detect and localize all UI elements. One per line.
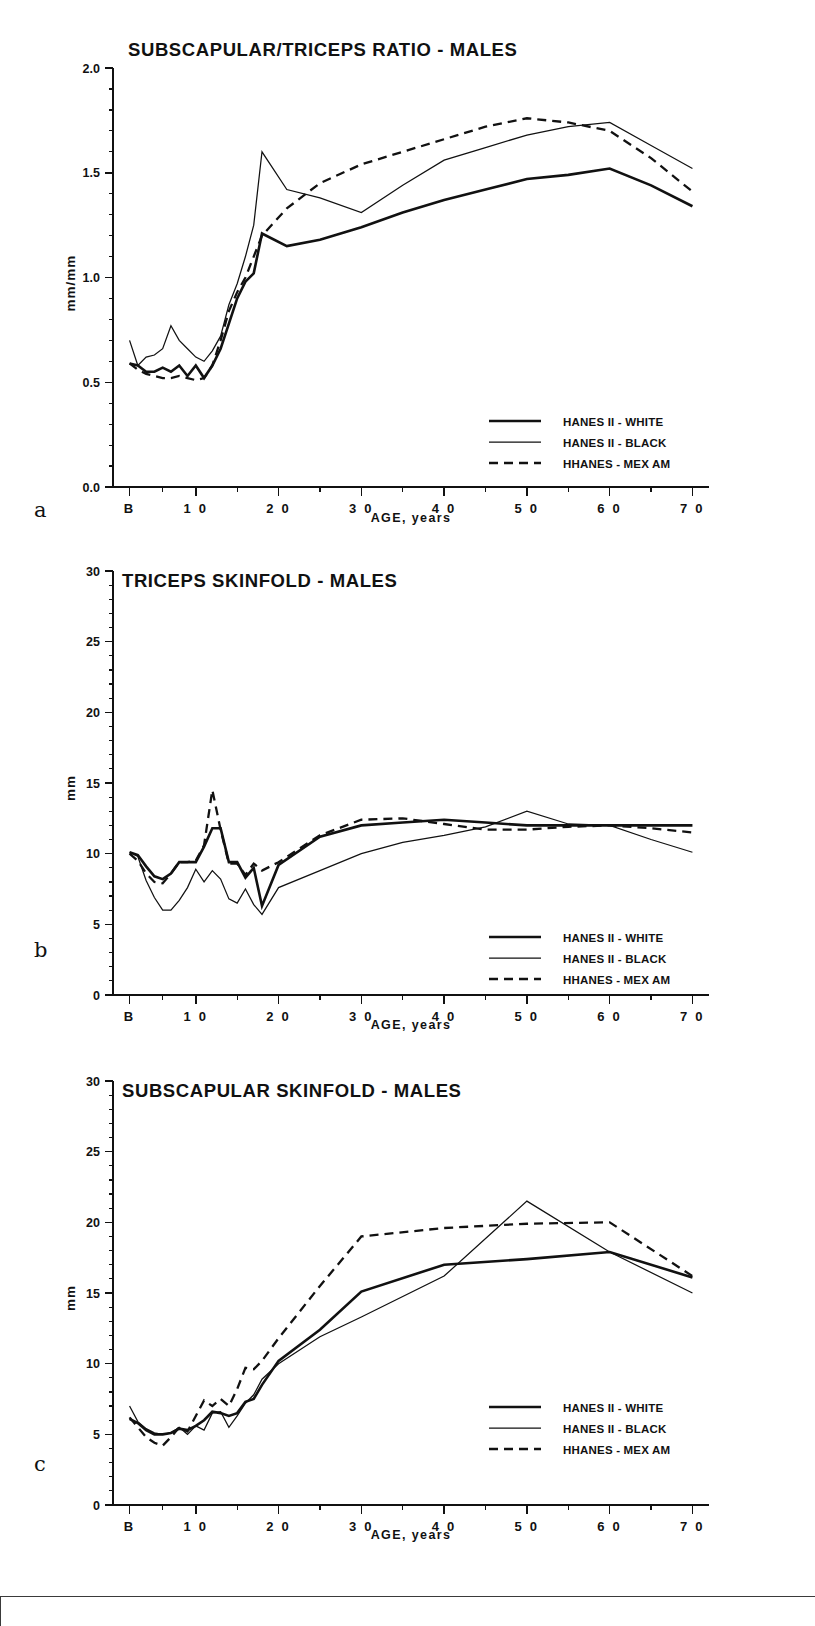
x-tick-label: 1 0 — [183, 1519, 208, 1534]
chart-svg-b: TRICEPS SKINFOLD - MALES051015202530B1 0… — [0, 540, 815, 1055]
y-tick-label: 25 — [86, 1145, 100, 1159]
x-axis-title-c: AGE, years — [371, 1528, 452, 1542]
y-tick-label: 25 — [86, 635, 100, 649]
chart-panel-b: TRICEPS SKINFOLD - MALES051015202530B1 0… — [0, 540, 815, 1055]
y-tick-label: 0 — [93, 989, 100, 1003]
y-tick-label: 1.0 — [83, 271, 100, 285]
panel-letter-a: a — [34, 498, 47, 522]
legend-label-1: HANES II - BLACK — [563, 1423, 667, 1435]
y-axis-title-c: mm — [63, 1285, 78, 1311]
x-tick-label: 5 0 — [515, 501, 540, 516]
page-edge-marker — [0, 1596, 1, 1626]
x-tick-label: 1 0 — [183, 1009, 208, 1024]
x-axis-title-b: AGE, years — [371, 1018, 452, 1032]
chart-title-a: SUBSCAPULAR/TRICEPS RATIO - MALES — [128, 39, 517, 60]
x-tick-label: 5 0 — [515, 1009, 540, 1024]
x-tick-label: 2 0 — [266, 1519, 291, 1534]
y-axis-title-b: mm — [63, 775, 78, 801]
y-tick-label: 30 — [86, 1075, 100, 1089]
y-tick-label: 5 — [93, 918, 100, 932]
x-tick-label: 6 0 — [597, 501, 622, 516]
legend-label-2: HHANES - MEX AM — [563, 458, 670, 470]
x-tick-label: 2 0 — [266, 1009, 291, 1024]
series-line-hanes-ii-black — [130, 122, 693, 365]
chart-title-c: SUBSCAPULAR SKINFOLD - MALES — [122, 1080, 462, 1101]
figure-root: SUBSCAPULAR/TRICEPS RATIO - MALES0.00.51… — [0, 0, 815, 1626]
page-footer-rule — [0, 1596, 815, 1597]
panel-letter-c: c — [34, 1452, 46, 1476]
y-tick-label: 15 — [86, 777, 100, 791]
y-tick-label: 2.0 — [83, 62, 100, 76]
panel-letter-b: b — [34, 938, 47, 962]
chart-svg-c: SUBSCAPULAR SKINFOLD - MALES051015202530… — [0, 1055, 815, 1565]
y-tick-label: 1.5 — [83, 166, 100, 180]
y-tick-label: 0.5 — [83, 376, 100, 390]
y-tick-label: 0 — [93, 1499, 100, 1513]
x-tick-label: 6 0 — [597, 1009, 622, 1024]
chart-title-b: TRICEPS SKINFOLD - MALES — [122, 570, 397, 591]
y-tick-label: 10 — [86, 847, 100, 861]
x-tick-label: 7 0 — [680, 1519, 705, 1534]
series-line-hanes-ii-black — [130, 1201, 693, 1434]
y-tick-label: 15 — [86, 1287, 100, 1301]
chart-panel-c: SUBSCAPULAR SKINFOLD - MALES051015202530… — [0, 1055, 815, 1565]
x-tick-label: 2 0 — [266, 501, 291, 516]
chart-panel-a: SUBSCAPULAR/TRICEPS RATIO - MALES0.00.51… — [0, 0, 815, 540]
x-tick-label: 6 0 — [597, 1519, 622, 1534]
x-tick-label: B — [124, 501, 136, 516]
y-axis-title-a: mm/mm — [63, 255, 78, 312]
y-tick-label: 5 — [93, 1428, 100, 1442]
legend-label-0: HANES II - WHITE — [563, 416, 663, 428]
y-tick-label: 20 — [86, 706, 100, 720]
x-tick-label: 1 0 — [183, 501, 208, 516]
series-line-hanes-ii-black — [130, 811, 693, 914]
y-tick-label: 0.0 — [83, 481, 100, 495]
legend-label-2: HHANES - MEX AM — [563, 1444, 670, 1456]
x-tick-label: 7 0 — [680, 1009, 705, 1024]
x-axis-title-a: AGE, years — [371, 511, 452, 525]
legend-label-1: HANES II - BLACK — [563, 953, 667, 965]
x-tick-label: 7 0 — [680, 501, 705, 516]
chart-svg-a: SUBSCAPULAR/TRICEPS RATIO - MALES0.00.51… — [0, 0, 815, 540]
x-tick-label: B — [124, 1519, 136, 1534]
legend-label-2: HHANES - MEX AM — [563, 974, 670, 986]
legend-label-0: HANES II - WHITE — [563, 932, 663, 944]
y-tick-label: 10 — [86, 1357, 100, 1371]
y-tick-label: 20 — [86, 1216, 100, 1230]
y-tick-label: 30 — [86, 565, 100, 579]
legend-label-0: HANES II - WHITE — [563, 1402, 663, 1414]
series-line-hanes-ii-white — [130, 820, 693, 906]
x-tick-label: 5 0 — [515, 1519, 540, 1534]
legend-label-1: HANES II - BLACK — [563, 437, 667, 449]
series-line-hhanes-mex-am — [130, 790, 693, 883]
series-line-hhanes-mex-am — [130, 118, 693, 380]
x-tick-label: B — [124, 1009, 136, 1024]
